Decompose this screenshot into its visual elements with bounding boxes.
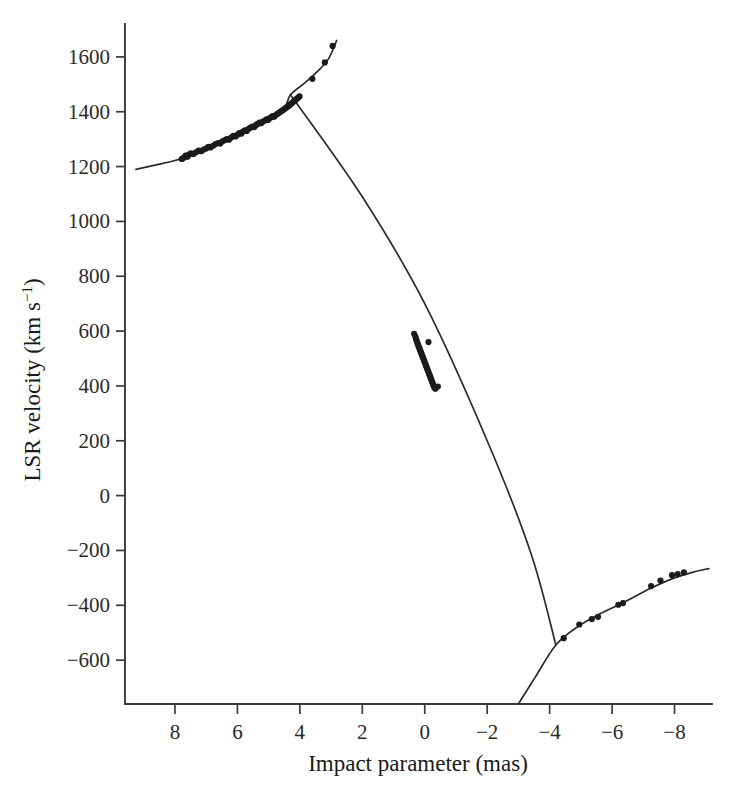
y-tick-label: −200 <box>67 538 110 562</box>
figure-background <box>0 0 738 796</box>
data-point <box>411 331 417 337</box>
y-tick-label: −400 <box>67 593 110 617</box>
y-axis-title: LSR velocity (km s−1) <box>19 278 45 481</box>
y-tick-label: −600 <box>67 648 110 672</box>
data-point <box>322 59 328 65</box>
y-tick-label: 1000 <box>68 209 110 233</box>
x-axis-title: Impact parameter (mas) <box>308 751 528 776</box>
x-tick-label: 2 <box>357 720 368 744</box>
y-tick-label: 800 <box>79 264 111 288</box>
x-tick-label: 6 <box>232 720 243 744</box>
data-point <box>425 339 431 345</box>
data-point <box>648 583 654 589</box>
y-tick-label: 1400 <box>68 100 110 124</box>
y-tick-label: 600 <box>79 319 111 343</box>
x-tick-label: −4 <box>538 720 561 744</box>
data-point <box>681 569 687 575</box>
x-tick-label: 0 <box>419 720 430 744</box>
y-tick-label: 400 <box>79 374 111 398</box>
data-point <box>675 571 681 577</box>
data-point <box>620 600 626 606</box>
y-tick-label: 1200 <box>68 155 110 179</box>
data-point <box>589 616 595 622</box>
x-tick-label: −6 <box>601 720 623 744</box>
data-point <box>330 43 336 49</box>
y-axis-title-exponent: −1 <box>19 286 35 302</box>
x-tick-label: 8 <box>170 720 181 744</box>
plot-canvas: 16001400120010008006004002000−200−400−60… <box>0 0 738 796</box>
y-tick-label: 0 <box>100 484 111 508</box>
x-tick-label: −8 <box>663 720 685 744</box>
data-point <box>669 572 675 578</box>
x-tick-label: −2 <box>476 720 498 744</box>
data-point <box>435 383 441 389</box>
y-axis-title-main: LSR velocity (km s <box>20 302 45 482</box>
position-velocity-figure: 16001400120010008006004002000−200−400−60… <box>0 0 738 796</box>
x-tick-label: 4 <box>295 720 306 744</box>
data-point <box>561 635 567 641</box>
data-point <box>296 93 302 99</box>
y-axis-title-close: ) <box>20 278 45 286</box>
data-point <box>657 578 663 584</box>
y-axis-title-group: LSR velocity (km s−1) <box>19 278 45 481</box>
y-tick-label: 1600 <box>68 45 110 69</box>
data-point <box>309 76 315 82</box>
y-tick-label: 200 <box>79 429 111 453</box>
data-point <box>595 614 601 620</box>
data-point <box>576 621 582 627</box>
